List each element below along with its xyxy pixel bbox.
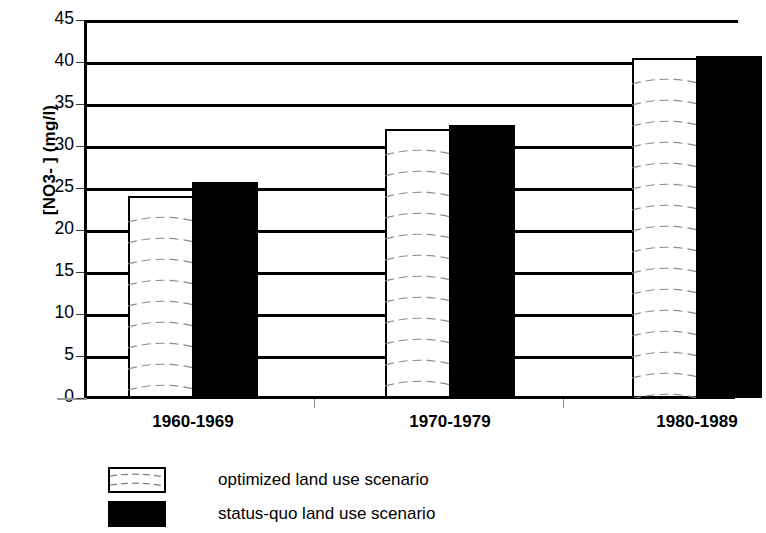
bar-status-quo: [449, 125, 515, 398]
hatch-pattern-icon: [385, 129, 451, 398]
hatch-pattern-icon: [128, 196, 194, 398]
y-tick-mark: [76, 314, 84, 315]
legend-label-status-quo: status-quo land use scenario: [218, 504, 435, 524]
bar-status-quo: [696, 56, 762, 398]
y-tick-mark: [76, 398, 84, 399]
grid-line: [87, 20, 738, 23]
y-tick-label: 25: [34, 178, 74, 196]
y-tick-mark: [76, 146, 84, 147]
y-tick-mark: [76, 356, 84, 357]
y-tick-label: 45: [34, 10, 74, 28]
y-tick-label: 15: [34, 262, 74, 280]
x-tick-mark: [563, 399, 564, 408]
legend-item-status-quo: status-quo land use scenario: [108, 497, 628, 531]
x-tick-mark: [314, 399, 315, 408]
bar-status-quo: [192, 182, 258, 398]
y-tick-label: 30: [34, 136, 74, 154]
y-tick-mark: [76, 230, 84, 231]
y-tick-mark: [76, 272, 84, 273]
y-tick-mark: [76, 62, 84, 63]
y-tick-label: 20: [34, 220, 74, 238]
y-tick-label: 5: [34, 346, 74, 364]
bar-optimized: [128, 196, 194, 398]
x-axis-category-label: 1970-1979: [375, 412, 525, 432]
x-axis-category-label: 1960-1969: [118, 412, 268, 432]
y-tick-label: 0: [34, 388, 74, 406]
y-tick-mark: [76, 20, 84, 21]
y-tick-mark: [76, 188, 84, 189]
chart-legend: optimized land use scenario status-quo l…: [108, 463, 628, 531]
y-tick-mark: [76, 104, 84, 105]
legend-label-optimized: optimized land use scenario: [218, 470, 429, 490]
y-axis-tick-labels: 454035302520151050: [32, 0, 74, 410]
bar-optimized: [385, 129, 451, 398]
bar-optimized: [632, 58, 698, 398]
legend-swatch-status-quo: [108, 501, 166, 527]
x-axis-category-label: 1980-1989: [622, 412, 766, 432]
hatch-pattern-icon: [110, 469, 164, 491]
hatch-pattern-icon: [632, 58, 698, 398]
legend-swatch-optimized: [108, 467, 166, 493]
y-tick-label: 35: [34, 94, 74, 112]
legend-item-optimized: optimized land use scenario: [108, 463, 628, 497]
y-tick-label: 40: [34, 52, 74, 70]
y-tick-label: 10: [34, 304, 74, 322]
